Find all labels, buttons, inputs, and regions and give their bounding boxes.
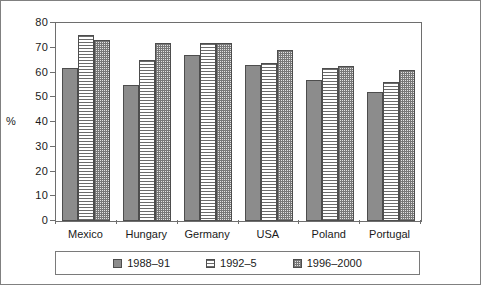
x-axis-tick-mark [116,220,117,224]
bar-hungary-series-3 [155,43,171,221]
x-axis-tick-mark [420,220,421,224]
x-axis-label-poland: Poland [312,228,346,240]
x-axis-tick-mark [177,220,178,224]
legend-label: 1988–91 [127,257,170,269]
y-axis-tick-label: 0 [0,214,48,226]
bar-usa-series-2 [261,63,277,221]
x-axis-tick-mark [298,220,299,224]
y-axis-tick-mark [50,146,55,147]
y-axis-tick-label: 40 [0,115,48,127]
bar-mexico-series-2 [78,35,94,221]
y-axis-tick-mark [50,195,55,196]
legend-label: 1992–5 [220,257,257,269]
y-axis-tick-label: 20 [0,165,48,177]
plot-area [55,22,422,222]
bar-germany-series-3 [216,43,232,221]
y-axis-tick-label: 60 [0,66,48,78]
legend-entry-2: 1992–5 [206,257,257,269]
y-axis-tick-label: 10 [0,189,48,201]
chart-figure: % 1988–911992–51996–2000 010203040506070… [0,0,483,287]
x-axis-label-germany: Germany [184,228,229,240]
x-axis-label-mexico: Mexico [68,228,103,240]
bar-poland-series-1 [306,80,322,221]
bars-layer [56,23,421,221]
x-axis-label-portugal: Portugal [369,228,410,240]
legend-entry-3: 1996–2000 [293,257,362,269]
bar-poland-series-3 [338,66,354,221]
y-axis-tick-label: 80 [0,16,48,28]
legend-swatch-icon [113,259,122,268]
bar-usa-series-3 [277,50,293,221]
legend-swatch-icon [293,259,302,268]
y-axis-tick-mark [50,47,55,48]
y-axis-tick-label: 70 [0,41,48,53]
legend-entry-1: 1988–91 [113,257,170,269]
legend-swatch-icon [206,259,215,268]
bar-mexico-series-3 [94,40,110,221]
chart-legend: 1988–911992–51996–2000 [55,251,420,275]
y-axis-tick-label: 30 [0,140,48,152]
y-axis-tick-label: 50 [0,90,48,102]
x-axis-label-usa: USA [257,228,280,240]
bar-usa-series-1 [245,65,261,221]
x-axis-label-hungary: Hungary [125,228,167,240]
bar-hungary-series-2 [139,60,155,221]
y-axis-tick-mark [50,121,55,122]
x-axis-tick-mark [55,220,56,224]
bar-portugal-series-2 [383,82,399,221]
y-axis-tick-mark [50,72,55,73]
bar-mexico-series-1 [62,68,78,221]
bar-poland-series-2 [322,68,338,221]
y-axis-tick-mark [50,96,55,97]
y-axis-tick-mark [50,171,55,172]
y-axis-tick-mark [50,22,55,23]
bar-portugal-series-1 [367,92,383,221]
bar-hungary-series-1 [123,85,139,221]
legend-label: 1996–2000 [307,257,362,269]
bar-germany-series-2 [200,43,216,221]
x-axis-tick-mark [359,220,360,224]
x-axis-tick-mark [238,220,239,224]
bar-portugal-series-3 [399,70,415,221]
bar-germany-series-1 [184,55,200,221]
